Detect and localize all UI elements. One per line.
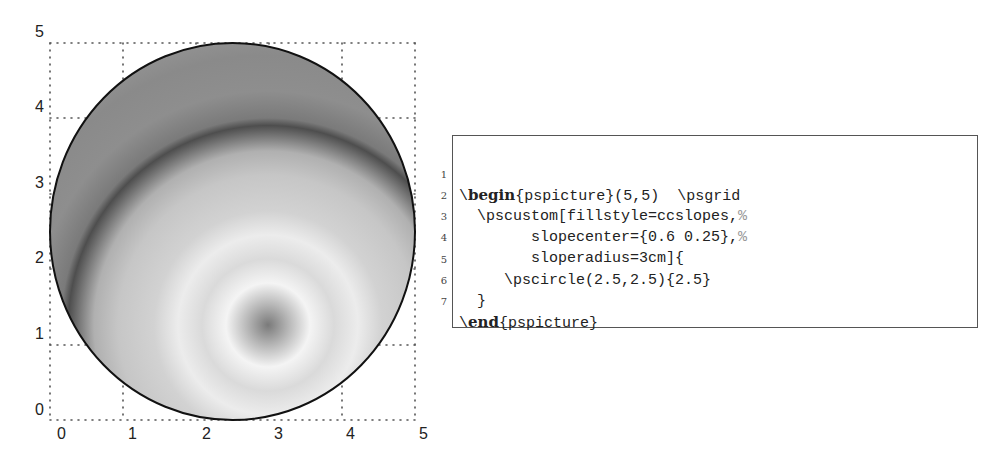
x-tick-label: 5 [419, 426, 428, 442]
y-tick-label: 3 [35, 175, 44, 191]
y-tick-label: 2 [35, 250, 44, 266]
code-comment: % [738, 229, 747, 246]
line-number: 1 [437, 164, 447, 185]
x-tick-label: 3 [274, 426, 283, 442]
x-tick-label: 2 [202, 426, 211, 442]
code-text: slopecenter={0.6 0.25}, [459, 229, 738, 246]
x-tick-label: 4 [346, 426, 355, 442]
line-number: 6 [437, 270, 447, 291]
pspicture-figure: 0 1 2 3 4 5 0 1 2 3 4 5 [0, 0, 440, 459]
code-line: 6 } [453, 249, 472, 270]
y-tick-label: 1 [35, 326, 44, 342]
shaded-circle [50, 43, 415, 420]
line-number: 7 [437, 291, 447, 312]
code-line: 2 \pscustom[fillstyle=ccslopes,% [453, 164, 472, 185]
code-text: sloperadius=3cm]{ [459, 250, 684, 267]
code-line: 5 \pscircle(2.5,2.5){2.5} [453, 228, 472, 249]
y-tick-label: 4 [35, 99, 44, 115]
code-line: 1 \begin{pspicture}(5,5) \psgrid [453, 143, 472, 164]
x-tick-label: 0 [57, 426, 66, 442]
line-number: 3 [437, 206, 447, 227]
code-line: 4 sloperadius=3cm]{ [453, 206, 472, 227]
code-line: 7 \end{pspicture} [453, 270, 472, 291]
code-listing: 1 \begin{pspicture}(5,5) \psgrid 2 \pscu… [452, 135, 978, 328]
code-text: {pspicture} [499, 315, 598, 332]
y-tick-label: 0 [35, 402, 44, 418]
code-text: \pscustom[fillstyle=ccslopes, [459, 208, 738, 225]
x-tick-label: 1 [128, 426, 137, 442]
circle-plot [0, 0, 440, 459]
code-text: {pspicture}(5,5) \psgrid [515, 188, 740, 205]
line-number: 5 [437, 249, 447, 270]
code-keyword: begin [468, 186, 515, 204]
code-line: 3 slopecenter={0.6 0.25},% [453, 185, 472, 206]
code-keyword: end [468, 313, 499, 331]
y-tick-label: 5 [35, 24, 44, 40]
code-backslash: \ [459, 315, 468, 332]
code-text: \pscircle(2.5,2.5){2.5} [459, 272, 711, 289]
code-comment: % [738, 208, 747, 225]
line-number: 4 [437, 227, 447, 248]
line-number: 2 [437, 185, 447, 206]
